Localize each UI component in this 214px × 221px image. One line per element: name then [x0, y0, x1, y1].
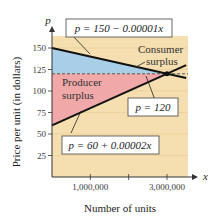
x-tick-label: 1,000,000: [72, 182, 109, 192]
y-tick-label: 150: [33, 43, 47, 53]
x-axis-letter: x: [202, 170, 208, 182]
y-axis-arrow-icon: [49, 26, 55, 32]
eq-equation: p = 120: [135, 101, 171, 113]
y-axis-title: Price per unit (in dollars): [10, 56, 23, 167]
y-axis-letter: p: [44, 14, 51, 26]
producer-surplus-label-2: surplus: [62, 89, 94, 101]
consumer-surplus-label-2: surplus: [146, 55, 178, 67]
producer-surplus-label: Producer: [62, 76, 102, 88]
surplus-chart: 255075100125150 1,000,0003,000,000 p x N…: [0, 0, 214, 221]
y-tick-label: 50: [37, 129, 47, 139]
consumer-surplus-label: Consumer: [138, 43, 184, 55]
y-tick-label: 25: [37, 151, 47, 161]
demand-equation: p = 150 − 0.00001x: [74, 22, 164, 34]
x-axis-title: Number of units: [84, 202, 156, 214]
equilibrium-point: [165, 71, 170, 76]
x-tick-label: 3,000,000: [149, 182, 186, 192]
y-tick-label: 100: [33, 86, 47, 96]
supply-equation: p = 60 + 0.00002x: [68, 139, 152, 151]
y-tick-label: 125: [33, 65, 47, 75]
y-tick-label: 75: [37, 108, 47, 118]
x-axis-arrow-icon: [192, 174, 198, 180]
y-ticks: 255075100125150: [33, 43, 53, 161]
